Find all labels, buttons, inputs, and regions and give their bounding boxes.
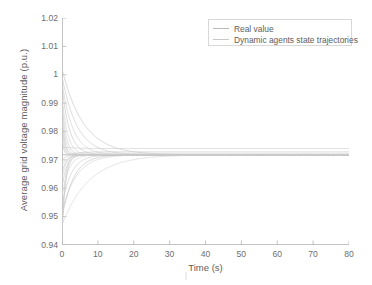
x-tick-label: 60	[257, 250, 297, 259]
plot-canvas	[62, 18, 349, 245]
trajectory-line	[62, 155, 349, 180]
tick-marks	[62, 18, 349, 245]
x-tick-label: 10	[78, 250, 118, 259]
x-tick-label: 20	[114, 250, 154, 259]
scan-artifact	[185, 272, 187, 280]
trajectory-line	[62, 155, 349, 218]
trajectory-line	[62, 155, 349, 213]
legend-item-dynamic-agents: Dynamic agents state trajectories	[209, 34, 351, 45]
trajectory-line	[62, 155, 349, 188]
trajectory-line	[62, 155, 349, 237]
y-tick-label: 1	[14, 70, 58, 79]
figure: Average grid voltage magnitude (p.u.) 1.…	[0, 0, 372, 285]
trajectory-line	[62, 155, 349, 197]
trajectory-line	[62, 69, 349, 155]
trajectory-line	[62, 102, 349, 155]
trajectory-line	[62, 155, 349, 225]
trajectory-line	[62, 140, 349, 155]
y-tick-label: 0.97	[14, 156, 58, 165]
x-tick-label: 70	[293, 250, 333, 259]
x-tick-label: 80	[329, 250, 369, 259]
y-tick-label: 0.96	[14, 184, 58, 193]
y-tick-label: 1.01	[14, 42, 58, 51]
y-tick-label: 0.94	[14, 241, 58, 250]
y-axis-tick-labels: 1.02 1.01 1 0.99 0.98 0.97 0.96 0.95 0.9…	[12, 18, 58, 245]
legend: Real value Dynamic agents state trajecto…	[208, 19, 352, 46]
axis-lines	[62, 18, 349, 245]
legend-line-swatch-dynamic-agents	[213, 39, 229, 40]
legend-item-real-value: Real value	[209, 23, 351, 34]
x-tick-label: 30	[150, 250, 190, 259]
y-tick-label: 0.98	[14, 127, 58, 136]
x-axis-tick-labels: 0 10 20 30 40 50 60 70 80	[62, 250, 349, 262]
y-tick-label: 0.95	[14, 212, 58, 221]
trajectory-line	[62, 147, 349, 148]
y-tick-label: 0.99	[14, 99, 58, 108]
trajectory-line	[62, 86, 349, 155]
x-tick-label: 40	[186, 250, 226, 259]
trajectory-curves	[62, 69, 349, 236]
legend-line-swatch-real-value	[213, 28, 229, 29]
legend-label: Dynamic agents state trajectories	[234, 35, 358, 45]
trajectory-line	[62, 155, 349, 206]
trajectory-line	[62, 82, 349, 155]
trajectory-line	[62, 109, 349, 155]
trajectory-line	[62, 95, 349, 155]
plot-area	[62, 18, 349, 245]
x-tick-label: 50	[221, 250, 261, 259]
x-tick-label: 0	[42, 250, 82, 259]
trajectory-line	[62, 122, 349, 155]
x-axis-title: Time (s)	[62, 262, 349, 273]
y-tick-label: 1.02	[14, 14, 58, 23]
legend-label: Real value	[234, 24, 274, 34]
trajectory-line	[62, 155, 349, 234]
